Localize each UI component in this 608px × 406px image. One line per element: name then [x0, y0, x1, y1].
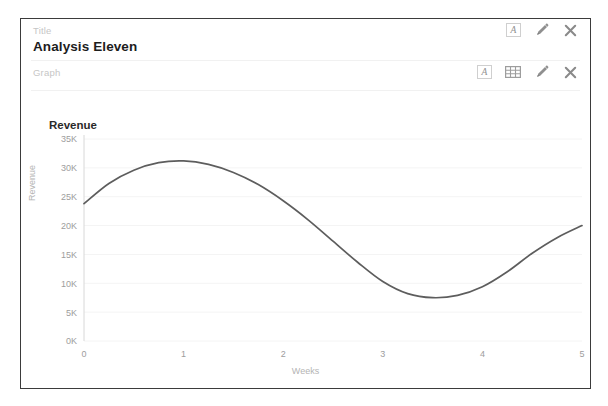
chart-y-tick-label: 5K [66, 308, 77, 318]
chart-x-tick-label: 2 [281, 349, 286, 359]
edit-pencil-icon[interactable] [534, 22, 550, 38]
chart-x-tick-label: 1 [181, 349, 186, 359]
screenshot-root: Title A [0, 0, 608, 406]
chart-x-tick-label: 3 [380, 349, 385, 359]
graph-field-actions: A [477, 61, 578, 80]
graph-field-row: Graph A [21, 61, 590, 91]
chart-x-tick-label: 4 [480, 349, 485, 359]
chart-y-tick-label: 30K [61, 163, 77, 173]
chart-series-line [84, 161, 582, 298]
chart-x-tick-label: 5 [579, 349, 584, 359]
chart-y-tick-label: 15K [61, 250, 77, 260]
revenue-line-chart: Revenue Revenue Weeks 0K5K10K15K20K25K30… [21, 93, 590, 388]
chart-y-tick-label: 20K [61, 221, 77, 231]
title-field-label: Title [33, 19, 52, 38]
chart-y-tick-label: 0K [66, 336, 77, 346]
chart-y-tick-label: 35K [61, 134, 77, 144]
title-field-actions: A [506, 19, 578, 38]
close-icon[interactable] [563, 65, 578, 80]
close-icon[interactable] [563, 23, 578, 38]
data-table-icon[interactable] [505, 66, 521, 78]
graph-divider [31, 90, 580, 91]
analysis-card: Title A [20, 18, 591, 389]
graph-field-label: Graph [33, 61, 60, 80]
chart-plot-svg: 0K5K10K15K20K25K30K35K012345 [21, 93, 590, 388]
annotate-text-icon[interactable]: A [477, 65, 492, 79]
title-field-value[interactable]: Analysis Eleven [33, 39, 137, 54]
edit-pencil-icon[interactable] [534, 64, 550, 80]
annotate-text-icon[interactable]: A [506, 23, 521, 37]
title-field-row: Title A [21, 19, 590, 61]
chart-y-tick-label: 10K [61, 279, 77, 289]
chart-x-tick-label: 0 [81, 349, 86, 359]
chart-y-tick-label: 25K [61, 192, 77, 202]
